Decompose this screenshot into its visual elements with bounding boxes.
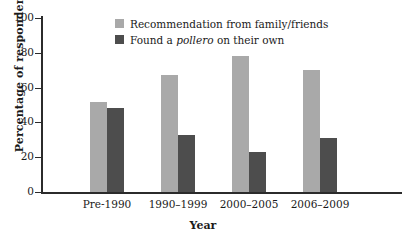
bar — [320, 138, 337, 192]
y-tick-100 — [35, 18, 41, 19]
legend-label-pollero: Found a pollero on their own — [130, 34, 284, 46]
legend-label-recommendation: Recommendation from family/friends — [130, 18, 328, 30]
x-axis-title: Year — [0, 219, 406, 232]
chart-legend: Recommendation from family/friends Found… — [115, 16, 328, 48]
legend-item-pollero: Found a pollero on their own — [115, 32, 328, 47]
y-tick-80 — [35, 53, 41, 54]
y-tick-40 — [35, 122, 41, 123]
y-axis-title: Percentage of respondents — [13, 0, 26, 154]
bar — [178, 135, 195, 192]
bar — [303, 70, 320, 192]
y-tick-60 — [35, 88, 41, 89]
legend-item-recommendation: Recommendation from family/friends — [115, 16, 328, 31]
y-tick-20 — [35, 157, 41, 158]
bar — [107, 108, 124, 192]
bar — [161, 75, 178, 192]
x-axis-line — [41, 192, 402, 194]
bar — [90, 102, 107, 192]
bar — [249, 152, 266, 192]
y-tick-label-60: 60 — [21, 81, 34, 93]
y-tick-label-0: 0 — [27, 185, 34, 197]
legend-swatch-light — [115, 19, 124, 28]
bar — [232, 56, 249, 192]
y-tick-label-100: 100 — [14, 11, 34, 23]
y-tick-label-20: 20 — [21, 150, 34, 162]
category-label: 2006–2009 — [275, 198, 365, 210]
y-tick-label-80: 80 — [21, 46, 34, 58]
y-tick-label-40: 40 — [21, 115, 34, 127]
bar-chart-figure: Percentage of respondents Year 020406080… — [0, 0, 406, 239]
legend-swatch-dark — [115, 35, 124, 44]
y-tick-0 — [35, 192, 41, 193]
